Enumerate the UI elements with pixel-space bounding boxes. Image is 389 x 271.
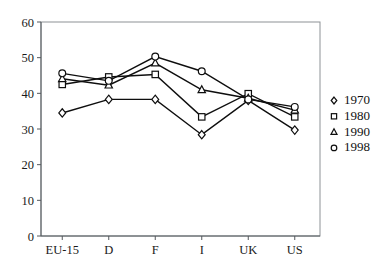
y-tick-label: 50 [22,51,35,65]
data-point-1998-I [198,68,205,75]
x-tick-label: I [200,243,204,257]
legend-marker-1998 [331,145,337,151]
y-tick-label: 20 [22,158,35,172]
data-point-1998-F [152,53,159,60]
y-tick-label: 30 [22,123,35,137]
data-point-1998-UK [245,96,252,103]
x-tick-label: UK [239,243,257,257]
data-point-1980-F [152,71,158,77]
legend-label-1990: 1990 [344,124,370,139]
x-tick-label: EU-15 [46,243,79,257]
legend-label-1980: 1980 [344,108,370,123]
y-tick-label: 40 [22,87,35,101]
legend-label-1970: 1970 [344,92,370,107]
chart-background [0,0,389,271]
y-tick-label: 10 [22,194,35,208]
data-point-1998-D [105,77,112,84]
y-tick-label: 0 [28,230,34,244]
chart-canvas: 0102030405060 EU-15DFIUKUS 1970198019901… [0,0,389,271]
legend-label-1998: 1998 [344,139,370,154]
data-point-1980-US [292,114,298,120]
data-point-1998-EU-15 [59,70,66,77]
data-point-1980-I [199,114,205,120]
x-tick-label: US [287,243,303,257]
x-tick-label: F [152,243,159,257]
y-tick-label: 60 [22,16,35,30]
line-chart-figure: 0102030405060 EU-15DFIUKUS 1970198019901… [0,0,389,271]
data-point-1998-US [291,103,298,110]
x-tick-label: D [104,243,113,257]
legend-marker-1980 [331,114,336,119]
